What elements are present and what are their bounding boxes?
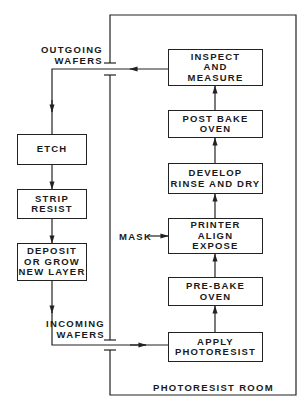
deposit-grow-layer-box: DEPOSIT OR GROW NEW LAYER <box>17 243 87 281</box>
apply-photoresist-box: APPLY PHOTORESIST <box>168 332 263 362</box>
box-line: DEVELOP <box>189 168 243 179</box>
outgoing-line-2: WAFERS <box>25 55 103 66</box>
mask-label: MASK <box>119 231 152 242</box>
outgoing-line-1: OUTGOING <box>25 44 103 55</box>
outgoing-wafers-label: OUTGOING WAFERS <box>25 44 103 66</box>
box-line: OVEN <box>200 124 232 135</box>
photoresist-room-label: PHOTORESIST ROOM <box>153 382 274 393</box>
etch-box: ETCH <box>17 134 87 165</box>
box-line: PRE-BAKE <box>186 281 245 292</box>
box-line: OVEN <box>200 292 232 303</box>
strip-resist-box: STRIP RESIST <box>17 189 87 219</box>
box-line: PHOTORESIST <box>175 347 256 358</box>
incoming-line-1: INCOMING <box>25 318 105 329</box>
incoming-wafers-label: INCOMING WAFERS <box>25 318 105 340</box>
box-line: MEASURE <box>188 73 244 84</box>
post-bake-oven-box: POST BAKE OVEN <box>168 110 263 138</box>
printer-align-expose-box: PRINTER ALIGN EXPOSE <box>168 218 263 254</box>
box-line: ETCH <box>37 144 68 155</box>
box-line: RESIST <box>31 204 73 215</box>
inspect-measure-box: INSPECT AND MEASURE <box>168 49 263 86</box>
box-line: EXPOSE <box>192 241 238 252</box>
incoming-line-2: WAFERS <box>25 329 105 340</box>
develop-rinse-dry-box: DEVELOP RINSE AND DRY <box>168 163 263 194</box>
pre-bake-oven-box: PRE-BAKE OVEN <box>168 277 263 306</box>
box-line: RINSE AND DRY <box>171 179 261 190</box>
box-line: NEW LAYER <box>19 267 86 278</box>
